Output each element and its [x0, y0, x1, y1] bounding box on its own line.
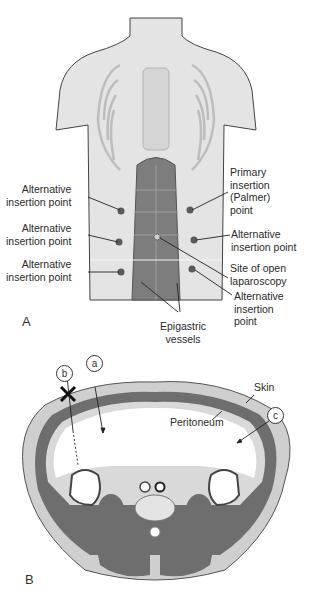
panel-a-letter: A — [22, 314, 31, 329]
label-open-laparoscopy: Site of openlaparoscopy — [230, 262, 287, 287]
label-alt-insertion-2: Alternativeinsertion point — [6, 222, 71, 247]
label-alt-insertion-1: Alternativeinsertion point — [6, 183, 71, 208]
marker-b: b — [56, 365, 73, 382]
panel-b-letter: B — [25, 572, 34, 587]
label-alt-insertion-right-low: Alternativeinsertionpoint — [234, 290, 284, 328]
abdomen-cross-section — [23, 382, 291, 580]
label-alt-insertion-right-mid: Alternativeinsertion point — [231, 228, 296, 253]
marker-a: a — [86, 355, 103, 372]
marker-c: c — [267, 407, 284, 424]
label-skin: Skin — [254, 381, 274, 394]
torso-figure — [56, 18, 256, 300]
label-peritoneum: Peritoneum — [170, 416, 224, 429]
label-primary-insertion: Primaryinsertion(Palmer)point — [230, 166, 270, 216]
label-alt-insertion-3: Alternativeinsertion point — [6, 258, 71, 283]
label-epigastric-vessels: Epigastricvessels — [160, 320, 206, 345]
